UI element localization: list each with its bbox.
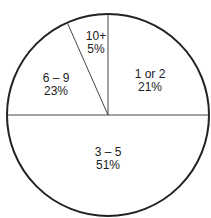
slice-percent: 23% [36,85,76,98]
slice-percent: 5% [82,43,110,56]
slice-label-1or2: 1 or 2 21% [130,68,170,94]
slice-percent: 51% [85,159,131,172]
slice-label-10plus: 10+ 5% [82,30,110,56]
slice-label-6to9: 6 – 9 23% [36,72,76,98]
slice-label-3to5: 3 – 5 51% [85,146,131,172]
slice-percent: 21% [130,81,170,94]
